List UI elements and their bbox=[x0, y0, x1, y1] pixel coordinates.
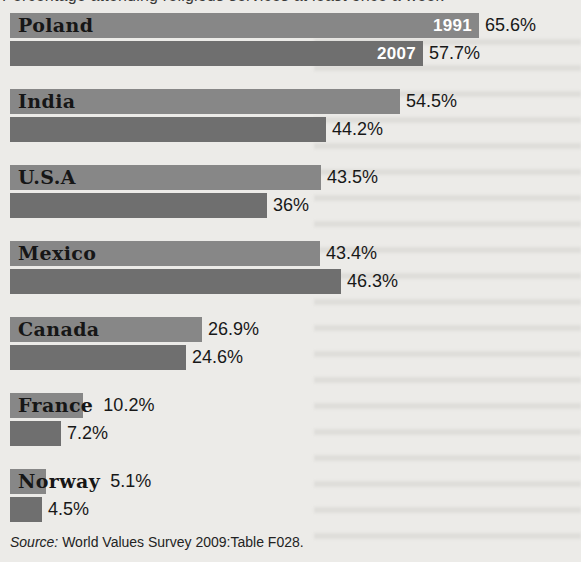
bar-row-india-1991: India54.5% bbox=[10, 89, 576, 114]
country-group-india: India54.5%44.2% bbox=[10, 89, 576, 142]
country-label-norway: Norway bbox=[18, 469, 100, 494]
value-label-poland-2007: 57.7% bbox=[429, 41, 480, 66]
value-label-canada-1991: 26.9% bbox=[208, 317, 259, 342]
bar-row-norway-2007: 4.5% bbox=[10, 497, 576, 522]
bar-row-poland-1991: 1991Poland65.6% bbox=[10, 13, 576, 38]
country-label-canada: Canada bbox=[18, 317, 198, 342]
country-group-canada: Canada26.9%24.6% bbox=[10, 317, 576, 370]
value-label-france-2007: 7.2% bbox=[67, 421, 108, 446]
source-prefix: Source: bbox=[10, 534, 58, 550]
value-label-france-1991: 10.2% bbox=[103, 393, 154, 418]
value-label-india-1991: 54.5% bbox=[406, 89, 457, 114]
country-group-france: France10.2%7.2% bbox=[10, 393, 576, 446]
bar-row-france-2007: 7.2% bbox=[10, 421, 576, 446]
value-label-poland-1991: 65.6% bbox=[485, 13, 536, 38]
chart-title-clipped: Percentage attending religious services … bbox=[2, 0, 562, 9]
chart-title-text: Percentage attending religious services … bbox=[2, 0, 562, 5]
bar-row-mexico-2007: 46.3% bbox=[10, 269, 576, 294]
country-group-mexico: Mexico43.4%46.3% bbox=[10, 241, 576, 294]
country-label-france: France bbox=[18, 393, 93, 418]
country-group-u-s-a: U.S.A43.5%36% bbox=[10, 165, 576, 218]
value-label-india-2007: 44.2% bbox=[332, 117, 383, 142]
value-label-mexico-1991: 43.4% bbox=[326, 241, 377, 266]
country-label-india: India bbox=[18, 89, 396, 114]
bar-row-canada-1991: Canada26.9% bbox=[10, 317, 576, 342]
value-label-u-s-a-2007: 36% bbox=[273, 193, 309, 218]
country-group-poland: 1991Poland65.6%200757.7% bbox=[10, 13, 576, 66]
country-group-norway: Norway5.1%4.5% bbox=[10, 469, 576, 522]
bar-row-india-2007: 44.2% bbox=[10, 117, 576, 142]
bar-row-u-s-a-1991: U.S.A43.5% bbox=[10, 165, 576, 190]
value-label-mexico-2007: 46.3% bbox=[347, 269, 398, 294]
bar-row-poland-2007: 200757.7% bbox=[10, 41, 576, 66]
bar-row-mexico-1991: Mexico43.4% bbox=[10, 241, 576, 266]
country-label-u-s-a: U.S.A bbox=[18, 165, 317, 190]
value-label-norway-2007: 4.5% bbox=[48, 497, 89, 522]
source-line: Source: World Values Survey 2009:Table F… bbox=[10, 534, 304, 550]
chart: 1991Poland65.6%200757.7%India54.5%44.2%U… bbox=[10, 13, 576, 545]
country-label-poland: Poland bbox=[18, 13, 475, 38]
country-label-mexico: Mexico bbox=[18, 241, 316, 266]
bar-row-canada-2007: 24.6% bbox=[10, 345, 576, 370]
bar-row-norway-1991: Norway5.1% bbox=[10, 469, 576, 494]
bar-row-u-s-a-2007: 36% bbox=[10, 193, 576, 218]
source-text: World Values Survey 2009:Table F028. bbox=[58, 534, 303, 550]
bar-row-france-1991: France10.2% bbox=[10, 393, 576, 418]
value-label-canada-2007: 24.6% bbox=[192, 345, 243, 370]
value-label-norway-1991: 5.1% bbox=[110, 469, 151, 494]
value-label-u-s-a-1991: 43.5% bbox=[327, 165, 378, 190]
